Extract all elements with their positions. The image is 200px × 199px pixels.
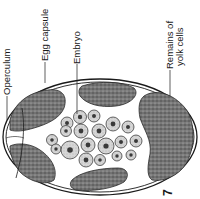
label-embryo: Embryo [71, 31, 82, 64]
label-operculum: Operculum [1, 48, 12, 95]
embryo-cell [130, 135, 142, 147]
embryo-cell [61, 141, 79, 159]
embryo-cell [74, 124, 88, 138]
embryo-cell [95, 155, 106, 166]
label-egg-capsule: Egg capsule [39, 9, 50, 61]
embryo-cell [74, 111, 87, 124]
corner-mark: 7 [161, 189, 175, 196]
egg-diagram: Operculum Egg capsule Embryo Remains of … [0, 0, 200, 199]
embryo-cell [112, 151, 122, 161]
embryo-cell [122, 121, 134, 133]
embryo-cell [51, 144, 61, 154]
embryo-cell [79, 153, 93, 167]
embryo-cell [81, 138, 95, 152]
embryo-cell [106, 117, 120, 131]
embryo-cell [88, 110, 100, 122]
embryo-cell [115, 136, 127, 148]
embryo-cell [92, 124, 106, 138]
embryo-cell [61, 126, 72, 137]
label-yolk-line2: yolk cells [174, 27, 185, 66]
embryo-cell [98, 138, 114, 154]
embryo-cell [126, 150, 136, 160]
